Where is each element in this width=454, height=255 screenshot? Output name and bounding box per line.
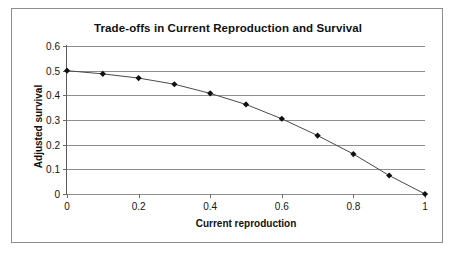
data-point-marker (279, 116, 285, 122)
series-markers (64, 68, 428, 198)
x-tick-4 (353, 194, 354, 198)
y-tick-label-0: 0 (54, 189, 60, 200)
chart-screenshot: Trade-offs in Current Reproduction and S… (0, 0, 454, 255)
y-tick-label-5: 0.5 (46, 65, 60, 76)
data-point-marker (243, 101, 249, 107)
x-tick-label-4: 0.8 (346, 201, 360, 212)
x-tick-label-5: 1 (422, 201, 428, 212)
y-tick-label-6: 0.6 (46, 41, 60, 52)
x-tick-0 (67, 194, 68, 198)
x-tick-label-3: 0.6 (275, 201, 289, 212)
y-tick-label-4: 0.4 (46, 90, 60, 101)
x-tick-2 (210, 194, 211, 198)
x-tick-1 (139, 194, 140, 198)
data-series-plot (67, 46, 425, 194)
y-tick-label-1: 0.1 (46, 164, 60, 175)
series-line-adjusted-survival (67, 71, 425, 194)
plot-area: 00.10.20.30.40.50.6 00.20.40.60.81 (67, 46, 425, 194)
data-point-marker (422, 191, 428, 197)
chart-title: Trade-offs in Current Reproduction and S… (12, 22, 444, 34)
data-point-marker (100, 71, 106, 77)
y-tick-label-2: 0.2 (46, 139, 60, 150)
x-tick-label-1: 0.2 (132, 201, 146, 212)
x-tick-label-2: 0.4 (203, 201, 217, 212)
x-tick-label-0: 0 (64, 201, 70, 212)
y-axis-title-label: Adjusted survival (34, 84, 45, 167)
x-tick-3 (282, 194, 283, 198)
data-point-marker (315, 132, 321, 138)
chart-frame: Trade-offs in Current Reproduction and S… (11, 8, 443, 243)
y-axis-title: Adjusted survival (31, 56, 47, 196)
data-point-marker (171, 81, 177, 87)
data-point-marker (207, 90, 213, 96)
gridline-y-0 (67, 194, 425, 195)
data-point-marker (386, 172, 392, 178)
data-point-marker (136, 75, 142, 81)
data-point-marker (64, 68, 70, 74)
x-axis-title: Current reproduction (67, 218, 425, 229)
data-point-marker (350, 151, 356, 157)
y-tick-label-3: 0.3 (46, 115, 60, 126)
